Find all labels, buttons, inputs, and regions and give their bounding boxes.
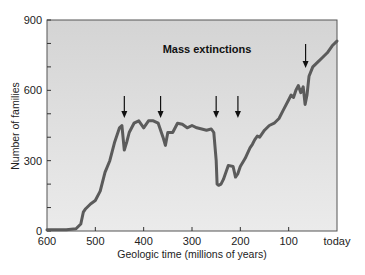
line-chart: 0300600900 600500400300200100today Mass … [0,0,365,275]
x-tick-label: 300 [183,235,201,247]
chart-annotation-title: Mass extinctions [163,43,252,55]
y-tick-label: 300 [24,155,42,167]
y-tick-label: 600 [24,84,42,96]
x-tick-label: 100 [279,235,297,247]
y-axis-label: Number of families [9,82,21,170]
x-tick-label: 500 [86,235,104,247]
x-tick-label: 200 [231,235,249,247]
x-tick-label: today [324,235,351,247]
y-tick-label: 900 [24,14,42,26]
x-axis-label: Geologic time (millions of years) [117,248,266,260]
x-tick-label: 600 [38,235,56,247]
x-tick-label: 400 [134,235,152,247]
